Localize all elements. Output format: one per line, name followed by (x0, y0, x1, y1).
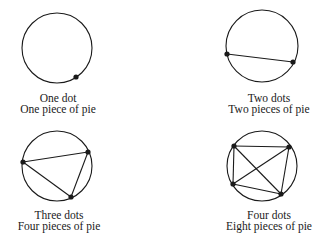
dot-marker (73, 74, 78, 79)
panel-two-dots (224, 10, 298, 82)
caption-three-dots: Three dots Four pieces of pie (4, 210, 114, 232)
caption-two-dots: Two dots Two pieces of pie (214, 93, 324, 115)
circle (22, 13, 92, 83)
panel-three-dots (20, 131, 92, 201)
dot-marker (68, 194, 73, 199)
chord (233, 184, 281, 194)
chord (233, 147, 289, 184)
chord (233, 146, 234, 184)
chord (23, 162, 71, 197)
dot-marker (290, 59, 295, 64)
dot-marker (278, 191, 283, 196)
circle-division-diagram: One dot One piece of pie Two dots Two pi… (0, 0, 325, 242)
chord (281, 147, 289, 194)
caption-pieces-label: Four pieces of pie (4, 221, 114, 232)
chord (234, 146, 289, 147)
dot-marker (231, 143, 236, 148)
caption-four-dots: Four dots Eight pieces of pie (214, 210, 324, 232)
chord (234, 146, 281, 194)
caption-pieces-label: One piece of pie (3, 104, 113, 115)
dot-marker (20, 159, 25, 164)
dot-marker (286, 144, 291, 149)
panel-four-dots (227, 131, 297, 201)
chord (227, 54, 293, 62)
circle (22, 131, 92, 201)
chord (23, 152, 88, 162)
caption-pieces-label: Eight pieces of pie (214, 221, 324, 232)
circle (226, 10, 298, 82)
caption-pieces-label: Two pieces of pie (214, 104, 324, 115)
caption-one-dot: One dot One piece of pie (3, 93, 113, 115)
dot-marker (230, 181, 235, 186)
dot-marker (85, 149, 90, 154)
panel-one-dot (22, 13, 92, 83)
dot-marker (224, 51, 229, 56)
chord (71, 152, 88, 197)
diagram-canvas (0, 0, 325, 242)
